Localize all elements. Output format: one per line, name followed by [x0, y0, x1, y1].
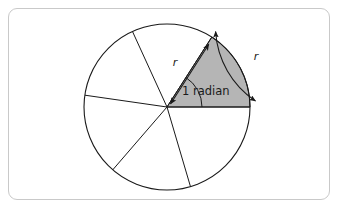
arc-length-label: r	[254, 50, 260, 63]
angle-label: 1 radian	[182, 84, 230, 98]
spoke-3rad	[85, 95, 167, 107]
spoke-5rad	[167, 107, 191, 187]
radius-label: r	[173, 56, 179, 69]
radian-diagram: r r 1 radian	[0, 0, 341, 211]
spoke-4rad	[113, 107, 167, 170]
spoke-2rad	[133, 32, 168, 108]
